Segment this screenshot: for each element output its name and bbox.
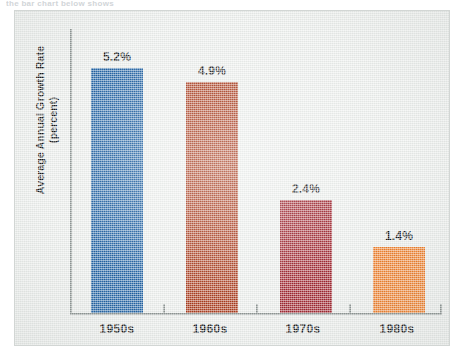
scanned-page: the bar chart below shows Average Annual…	[0, 0, 463, 355]
bar-value-label-1980s: 1.4%	[385, 229, 413, 243]
cropped-header-text: the bar chart below shows	[6, 0, 206, 7]
x-axis-label-1960s: 1960s	[175, 322, 245, 336]
bar-chart-figure: Average Annual Growth Rate (percent) 5.2…	[14, 10, 450, 346]
x-axis-label-1970s: 1970s	[268, 322, 338, 336]
x-axis-label-1980s: 1980s	[362, 322, 432, 336]
bar-group-1960s[interactable]: 4.9%	[186, 82, 238, 313]
bar-1970s[interactable]	[280, 200, 332, 313]
y-axis-title: Average Annual Growth Rate (percent)	[34, 20, 60, 220]
y-axis-title-units: (percent)	[47, 20, 60, 220]
bar-group-1980s[interactable]: 1.4%	[373, 247, 425, 313]
bar-1950s[interactable]	[91, 68, 143, 313]
plot-area: 5.2% 4.9% 2.4% 1.4%	[70, 29, 442, 314]
bar-group-1970s[interactable]: 2.4%	[280, 200, 332, 313]
y-axis-title-line-1: Average Annual Growth Rate	[34, 20, 47, 220]
bar-1980s[interactable]	[373, 247, 425, 313]
bar-group-1950s[interactable]: 5.2%	[91, 68, 143, 313]
bar-1960s[interactable]	[186, 82, 238, 313]
bar-value-label-1960s: 4.9%	[198, 64, 226, 78]
bar-value-label-1950s: 5.2%	[103, 50, 131, 64]
x-axis-label-1950s: 1950s	[82, 322, 152, 336]
bar-value-label-1970s: 2.4%	[292, 182, 320, 196]
